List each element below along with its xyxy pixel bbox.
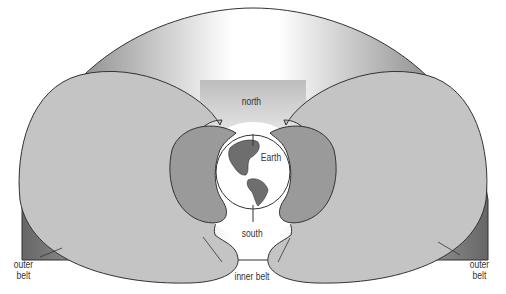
outer-belt-left-line1: outer [14, 259, 33, 270]
outer-belt-left-label: outer belt [14, 259, 33, 281]
inner-belt-label: inner belt [227, 271, 278, 282]
north-label: north [242, 96, 261, 107]
earth-label: Earth [261, 152, 281, 163]
south-label: south [242, 228, 263, 239]
outer-belt-left-line2: belt [14, 270, 33, 281]
radiation-belts-diagram [0, 0, 506, 294]
outer-belt-right-label: outer belt [470, 259, 489, 281]
outer-belt-right-line1: outer [470, 259, 489, 270]
outer-belt-right-line2: belt [470, 270, 489, 281]
